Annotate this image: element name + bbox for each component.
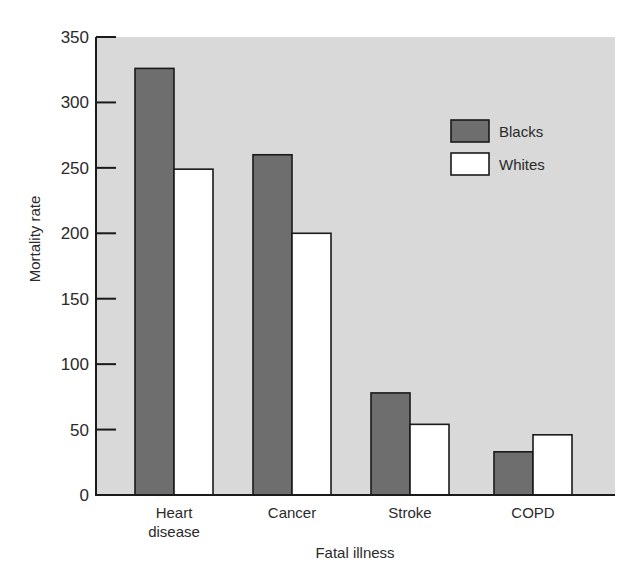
bar-whites-heart-disease [174, 169, 213, 495]
x-category-label: COPD [511, 504, 555, 521]
bar-chart: 050100150200250300350 HeartdiseaseCancer… [0, 0, 638, 574]
x-category-label: Heart [156, 504, 194, 521]
x-category-label: disease [148, 523, 200, 540]
x-category-label: Stroke [388, 504, 431, 521]
y-tick-label: 50 [70, 421, 89, 440]
legend-label-whites: Whites [499, 156, 545, 173]
legend-swatch-whites [451, 153, 489, 175]
x-axis-title: Fatal illness [315, 544, 394, 561]
y-tick-label: 300 [61, 93, 89, 112]
bar-blacks-heart-disease [135, 68, 174, 495]
bar-blacks-cancer [253, 155, 292, 495]
y-tick-label: 350 [61, 28, 89, 47]
y-tick-label: 200 [61, 224, 89, 243]
bar-blacks-copd [494, 452, 533, 495]
y-tick-label: 0 [80, 486, 89, 505]
y-tick-label: 250 [61, 159, 89, 178]
bar-whites-stroke [410, 424, 449, 495]
legend-swatch-blacks [451, 120, 489, 142]
x-axis-category-labels: HeartdiseaseCancerStrokeCOPD [148, 504, 555, 540]
bar-blacks-stroke [371, 393, 410, 495]
y-tick-label: 100 [61, 355, 89, 374]
bar-whites-cancer [292, 233, 331, 495]
y-axis-title: Mortality rate [26, 196, 43, 283]
legend-label-blacks: Blacks [499, 123, 543, 140]
bar-whites-copd [533, 435, 572, 495]
x-category-label: Cancer [268, 504, 316, 521]
y-tick-label: 150 [61, 290, 89, 309]
